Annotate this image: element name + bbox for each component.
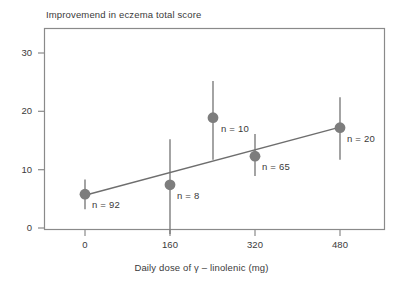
data-point-marker	[250, 151, 261, 162]
data-point-marker	[80, 189, 91, 200]
x-tick-label-0: 0	[65, 239, 105, 250]
x-axis-label: Daily dose of γ – linolenic (mg)	[0, 262, 403, 273]
annotation-n-10: n = 10	[221, 123, 249, 134]
data-point-marker	[165, 179, 176, 190]
annotation-n-20: n = 20	[347, 133, 375, 144]
y-tick-label-10: 10	[8, 164, 32, 175]
annotation-n-65: n = 65	[262, 161, 290, 172]
y-axis-ticks	[38, 53, 45, 228]
x-tick-label-160: 160	[150, 239, 190, 250]
data-point-marker	[335, 122, 346, 133]
x-axis-ticks	[85, 230, 340, 237]
x-tick-label-480: 480	[320, 239, 360, 250]
chart-figure: Improvemend in eczema total score	[0, 0, 403, 287]
annotation-n-92: n = 92	[92, 199, 120, 210]
data-point-marker	[208, 112, 219, 123]
y-tick-label-20: 20	[8, 105, 32, 116]
annotation-n-8: n = 8	[177, 190, 199, 201]
error-bars	[85, 81, 340, 234]
y-tick-label-30: 30	[8, 47, 32, 58]
x-tick-label-320: 320	[235, 239, 275, 250]
y-tick-label-0: 0	[8, 222, 32, 233]
